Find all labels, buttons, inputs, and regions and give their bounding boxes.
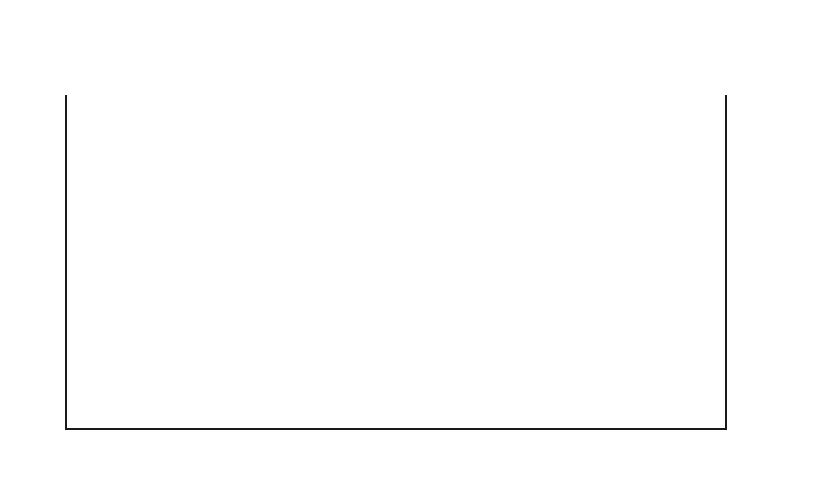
x-axis-line [65, 428, 727, 430]
chart-canvas [66, 95, 726, 428]
plot-area [66, 95, 726, 428]
figure-container [0, 0, 820, 501]
